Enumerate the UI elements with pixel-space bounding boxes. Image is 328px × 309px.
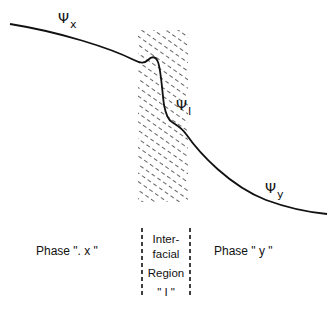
psi-symbol: Ψ [58, 10, 69, 26]
psi-x-subscript: x [70, 18, 77, 31]
psi-symbol: Ψ [176, 97, 187, 113]
phase-y-label: Phase " y " [214, 244, 273, 258]
interfacial-line-1: Inter- [144, 232, 188, 247]
interfacial-hatch [138, 30, 188, 202]
interfacial-region-label: Inter- facial Region " I " [144, 232, 188, 300]
psi-symbol: Ψ [265, 180, 276, 196]
interfacial-line-4: " I " [144, 285, 188, 300]
phase-x-label: Phase ". x " [36, 244, 98, 258]
interfacial-line-2: facial [144, 247, 188, 262]
psi-y-subscript: y [277, 188, 284, 201]
psi-x-label: Ψx [58, 10, 76, 26]
psi-i-subscript: I [188, 105, 191, 118]
psi-y-label: Ψy [265, 180, 283, 196]
psi-i-label: ΨI [176, 97, 190, 113]
interfacial-line-3: Region [144, 266, 188, 281]
